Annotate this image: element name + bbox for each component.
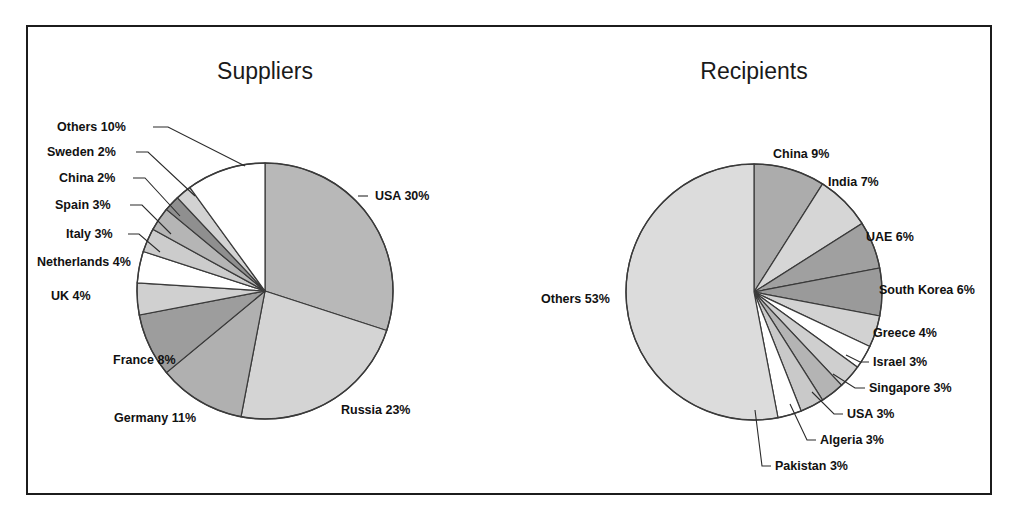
pie-slice-label: Spain 3% [55, 198, 111, 212]
pie-slice-label: USA 3% [847, 407, 894, 421]
pie-slice-label: Others 53% [541, 292, 610, 306]
pie-slice-label: Greece 4% [873, 326, 937, 340]
pie-slice-label: France 8% [113, 353, 176, 367]
charts-canvas: SuppliersUSA 30%Russia 23%Germany 11%Fra… [0, 0, 1013, 519]
pie-slice-label: China 2% [59, 171, 115, 185]
pie-slice-label: Israel 3% [873, 355, 927, 369]
pie-slice-label: China 9% [773, 147, 829, 161]
pie-slice-label: South Korea 6% [879, 283, 975, 297]
pie-slice-label: Germany 11% [114, 411, 196, 425]
pie-slice-label: Others 10% [57, 120, 126, 134]
chart-title: Recipients [700, 58, 807, 84]
pie-slice-label: Netherlands 4% [37, 255, 131, 269]
chart-title: Suppliers [217, 58, 313, 84]
pie-slice-label: Singapore 3% [869, 381, 952, 395]
recipients-pie-chart: RecipientsChina 9%India 7%UAE 6%South Ko… [541, 58, 975, 473]
pie-slice-label: USA 30% [375, 189, 429, 203]
pie-slice-label: UAE 6% [866, 230, 914, 244]
pie-slice-label: India 7% [828, 175, 879, 189]
pie-chart-figure: SuppliersUSA 30%Russia 23%Germany 11%Fra… [0, 0, 1013, 519]
suppliers-pie-chart: SuppliersUSA 30%Russia 23%Germany 11%Fra… [37, 58, 429, 425]
pie-slice-label: Pakistan 3% [775, 459, 848, 473]
pie-slice-label: Algeria 3% [820, 433, 884, 447]
pie-slice-label: UK 4% [51, 289, 91, 303]
pie-slice-label: Italy 3% [66, 227, 113, 241]
pie-slice-label: Sweden 2% [47, 145, 116, 159]
label-leader-line [153, 127, 245, 166]
pie-slice-label: Russia 23% [341, 403, 410, 417]
